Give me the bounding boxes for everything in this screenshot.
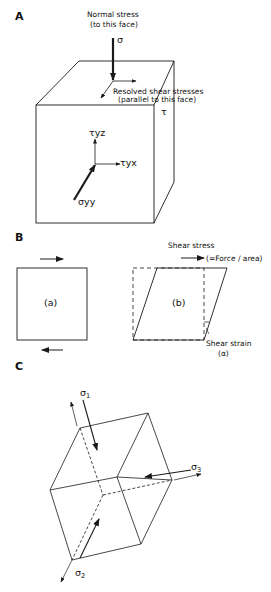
shear-arrow-z [101, 81, 113, 98]
normal-stress-title: Normal stress [87, 11, 139, 19]
square-b-label: (b) [172, 298, 185, 308]
panel-c-label: C [15, 361, 23, 372]
sigma-2-subscript: 2 [81, 572, 85, 580]
sigma-3-arrow [145, 470, 191, 477]
sigma-1-reaction-arrow [71, 402, 77, 426]
shear-stress-b-sub: (=Force / area) [206, 255, 262, 263]
cube-a-right-face [154, 61, 174, 223]
sigma-2-label: σ2 [75, 568, 85, 580]
shear-strain-symbol: (α) [218, 350, 229, 358]
sigma-2-arrow [80, 519, 99, 558]
sigma-3-subscript: 3 [197, 466, 201, 474]
tau-symbol: τ [161, 107, 167, 117]
sigma-2-reaction-arrow [61, 560, 72, 582]
square-a-label: (a) [44, 298, 57, 308]
tau-yx-label: τyx [120, 158, 137, 168]
tau-yz-label: τyz [89, 128, 105, 138]
sigma-3-label: σ3 [191, 462, 201, 474]
panel-b-label: B [15, 232, 23, 243]
shear-stress-b-title: Shear stress [168, 242, 214, 250]
shear-stress-sub: (parallel to this face) [118, 96, 196, 104]
normal-stress-symbol: σ [117, 35, 123, 45]
cube-a [36, 61, 174, 223]
panel-a-label: A [15, 11, 24, 22]
square-b-original [133, 268, 204, 340]
shear-strain-title: Shear strain [206, 340, 252, 348]
normal-stress-sub: (to this face) [90, 21, 138, 29]
sigma-yy-label: σyy [78, 197, 95, 207]
sigma-3-reaction-arrow [174, 474, 201, 480]
sigma-yy-arrow [74, 165, 95, 200]
sigma-1-label: σ1 [80, 388, 90, 400]
cube-c [50, 413, 172, 560]
sigma-1-subscript: 1 [86, 392, 90, 400]
